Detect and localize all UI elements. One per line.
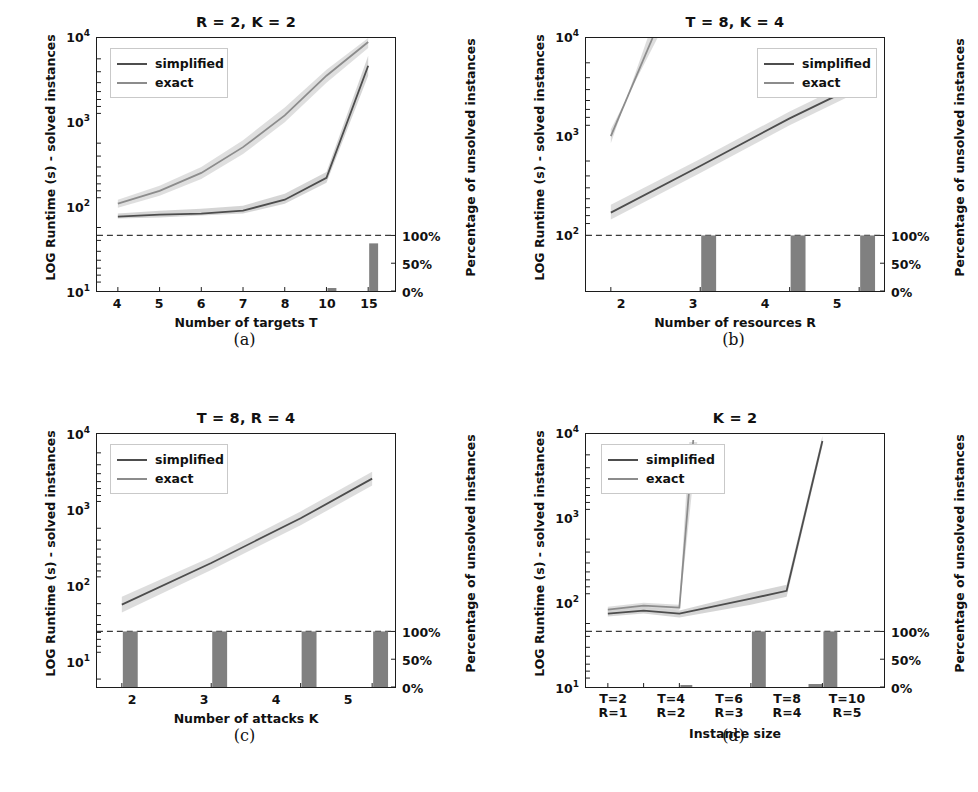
x-tick-c-1: 3 [200,692,209,707]
y-tick-d-10e4: 104 [555,426,579,441]
y-tick-right-d-50: 50% [891,653,921,668]
x-tick-d-3: T=8 R=4 [773,692,802,721]
bar-d-t6-exact [680,685,692,687]
bar-a-10-exact [327,288,336,291]
x-ticks-c [122,683,372,687]
legend-line-exact-icon [117,82,147,84]
bar-d-t8-exact [752,631,766,687]
y-tick-right-a-100: 100% [402,229,441,244]
legend-d: simplified exact [601,444,725,494]
x-ticks-b [611,287,859,291]
x-tick-b-2: 4 [761,296,770,311]
panel-a: R = 2, K = 2 LOG Runtime (s) - solved in… [0,0,489,340]
x-tick-c-0: 2 [128,692,137,707]
x-tick-a-5: 10 [318,296,335,311]
y-tick-d-10e2: 102 [555,596,579,611]
x-tick-d-0: T=2 R=1 [599,692,628,721]
subfigure-caption-a: (a) [0,330,489,349]
line-exact-b [611,38,653,136]
y-tick-d-10e1: 101 [555,681,579,696]
panel-b: T = 8, K = 4 LOG Runtime (s) - solved in… [489,0,978,340]
y-minor-ticks-b [586,63,590,224]
legend-label-simplified: simplified [155,56,224,71]
bar-b-4-exact [791,235,806,291]
x-tick-d-1-line2: R=2 [657,706,686,720]
y-tick-c-10e1: 101 [66,655,90,670]
y-minor-ticks-d [586,455,590,678]
legend-line-simplified-icon [117,459,147,461]
legend-row-simplified-b: simplified [764,54,868,73]
y-tick-a-10e3: 103 [66,115,90,130]
y-right-ticks-c [391,631,395,687]
legend-label-simplified: simplified [646,452,715,467]
x-tick-d-4: T=10 R=5 [829,692,865,721]
legend-c: simplified exact [110,444,228,494]
y-minor-ticks-a [97,59,101,282]
x-tick-c-2: 4 [272,692,281,707]
x-tick-d-4-line2: R=5 [829,706,865,720]
legend-row-exact-c: exact [117,469,219,488]
subfigure-d: K = 2 LOG Runtime (s) - solved instances… [489,396,978,792]
x-tick-d-2-line2: R=3 [715,706,744,720]
y-tick-a-10e4: 104 [66,30,90,45]
y-right-ticks-b [880,235,884,291]
x-tick-a-3: 7 [239,296,248,311]
subfigure-caption-b: (b) [489,330,978,349]
bar-c-4-exact [302,631,317,687]
band-simplified-b [611,78,859,220]
y-axis-label-left-d: LOG Runtime (s) - solved instances [532,424,547,684]
x-axis-label-c: Number of attacks K [96,711,396,726]
y-tick-a-10e2: 102 [66,200,90,215]
y-tick-right-c-50: 50% [402,653,432,668]
y-minor-ticks-c [97,453,101,679]
y-right-ticks-d [880,631,884,687]
x-tick-a-1: 5 [155,296,164,311]
bar-b-5-exact [860,235,875,291]
legend-label-simplified: simplified [155,452,224,467]
bar-c-3-exact [212,631,227,687]
x-tick-b-0: 2 [617,296,626,311]
legend-a: simplified exact [110,48,228,98]
y-tick-right-b-0: 0% [891,285,912,300]
x-axis-label-b: Number of resources R [585,315,885,330]
band-exact-b [611,38,658,143]
legend-row-exact-d: exact [608,469,716,488]
y-tick-b-10e4: 104 [555,30,579,45]
legend-row-simplified-c: simplified [117,450,219,469]
bar-c-2-exact [123,631,138,687]
y-tick-right-c-100: 100% [402,625,441,640]
x-tick-b-3: 5 [833,296,842,311]
y-tick-d-10e3: 103 [555,511,579,526]
bar-d-t10-simplified [809,684,823,687]
plot-title-b: T = 8, K = 4 [585,14,885,30]
bar-b-3-exact [701,235,716,291]
x-tick-a-0: 4 [113,296,122,311]
x-tick-d-2-line1: T=6 [715,692,744,706]
legend-b: simplified exact [757,48,877,98]
plot-title-d: K = 2 [585,410,885,426]
y-right-ticks-a [391,235,395,291]
x-tick-d-0-line2: R=1 [599,706,628,720]
legend-row-simplified-a: simplified [117,54,219,73]
x-tick-a-4: 8 [281,296,290,311]
x-ticks-d [608,683,823,687]
legend-line-simplified-icon [117,63,147,65]
x-tick-d-3-line2: R=4 [773,706,802,720]
subfigure-caption-d: (d) [489,726,978,745]
legend-label-exact: exact [646,471,684,486]
x-tick-d-3-line1: T=8 [773,692,802,706]
y-tick-right-a-50: 50% [402,257,432,272]
y-axis-label-left-a: LOG Runtime (s) - solved instances [43,28,58,288]
legend-label-simplified: simplified [802,56,871,71]
legend-label-exact: exact [802,75,840,90]
y-tick-right-d-100: 100% [891,625,930,640]
legend-line-exact-icon [764,82,794,84]
x-tick-c-3: 5 [344,692,353,707]
legend-row-exact-b: exact [764,73,868,92]
legend-row-exact-a: exact [117,73,219,92]
x-tick-a-2: 6 [197,296,206,311]
subfigure-c: T = 8, R = 4 LOG Runtime (s) - solved in… [0,396,489,792]
plot-title-c: T = 8, R = 4 [96,410,396,426]
x-tick-d-0-line1: T=2 [599,692,628,706]
y-tick-c-10e2: 102 [66,579,90,594]
